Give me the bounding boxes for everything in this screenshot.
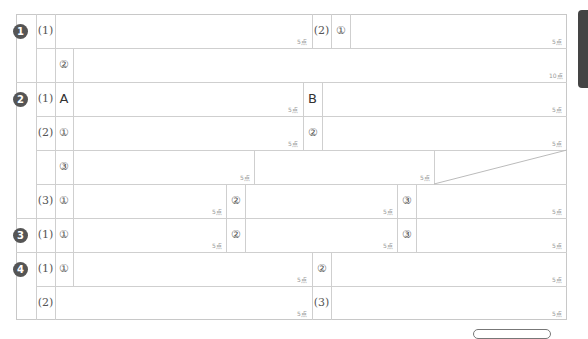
points-label: 5点 <box>297 38 307 46</box>
sub-label: ① <box>55 262 73 276</box>
sub-label: ③ <box>397 194 416 208</box>
points-label: 5点 <box>383 208 393 216</box>
score-pill <box>473 329 551 339</box>
points-label: 5点 <box>297 310 307 318</box>
points-label: 5点 <box>552 208 562 216</box>
sub-label: ① <box>55 126 73 140</box>
answer-box-1-1[interactable] <box>55 14 312 48</box>
answer-box-2-3-1[interactable] <box>73 184 226 218</box>
question-3-badge: 3 <box>13 228 28 243</box>
points-label: 5点 <box>297 276 307 284</box>
answer-box-3-1-3[interactable] <box>416 218 567 252</box>
points-label: 5点 <box>552 38 562 46</box>
sub-label: ② <box>312 262 331 276</box>
points-label: 5点 <box>552 106 562 114</box>
answer-box-3-1-2[interactable] <box>245 218 397 252</box>
points-label: 5点 <box>552 276 562 284</box>
points-label: 5点 <box>552 140 562 148</box>
points-label: 10点 <box>549 72 563 80</box>
answer-box-2-1-a[interactable] <box>73 82 303 116</box>
answer-box-2-2-2[interactable] <box>322 116 567 150</box>
sub-label: ① <box>55 194 73 208</box>
part-label: (3) <box>312 296 331 310</box>
answer-box-2-2-3b[interactable] <box>254 150 434 184</box>
points-label: 5点 <box>383 242 393 250</box>
sub-label: A <box>55 92 73 106</box>
question-4-badge: 4 <box>13 262 28 277</box>
answer-box-4-3[interactable] <box>331 286 567 320</box>
points-label: 5点 <box>212 208 222 216</box>
points-label: 5点 <box>420 174 430 182</box>
sub-label: ② <box>226 194 245 208</box>
sub-label: ② <box>226 228 245 242</box>
part-label: (1) <box>36 92 55 106</box>
part-label: (1) <box>36 228 55 242</box>
sub-label: ① <box>55 228 73 242</box>
answer-box-1-2-1[interactable] <box>350 14 567 48</box>
sub-label: ③ <box>55 160 73 174</box>
answer-box-2-2-3a[interactable] <box>73 150 254 184</box>
points-label: 5点 <box>288 106 298 114</box>
points-label: 5点 <box>552 310 562 318</box>
answer-box-1-2-2[interactable] <box>73 48 567 82</box>
answer-box-2-1-b[interactable] <box>322 82 567 116</box>
answer-box-2-3-2[interactable] <box>245 184 397 218</box>
sub-label: ② <box>55 58 73 72</box>
sub-label: ② <box>303 126 322 140</box>
answer-box-4-2[interactable] <box>55 286 312 320</box>
part-label: (1) <box>36 262 55 276</box>
answer-box-4-1-2[interactable] <box>331 252 567 286</box>
side-index-tab <box>578 10 588 88</box>
points-label: 5点 <box>552 242 562 250</box>
sub-label: ③ <box>397 228 416 242</box>
answer-box-3-1-1[interactable] <box>73 218 226 252</box>
sub-label: ① <box>331 24 350 38</box>
question-1-badge: 1 <box>13 24 28 39</box>
answer-box-4-1-1[interactable] <box>73 252 312 286</box>
answer-box-2-3-3[interactable] <box>416 184 567 218</box>
points-label: 5点 <box>240 174 250 182</box>
question-2-badge: 2 <box>13 92 28 107</box>
part-label: (2) <box>312 24 331 38</box>
answer-box-2-2-1[interactable] <box>73 116 303 150</box>
part-label: (3) <box>36 194 55 208</box>
points-label: 5点 <box>212 242 222 250</box>
part-label: (2) <box>36 126 55 140</box>
part-label: (2) <box>36 296 55 310</box>
sub-label: B <box>303 92 322 106</box>
part-label: (1) <box>36 24 55 38</box>
points-label: 5点 <box>288 140 298 148</box>
